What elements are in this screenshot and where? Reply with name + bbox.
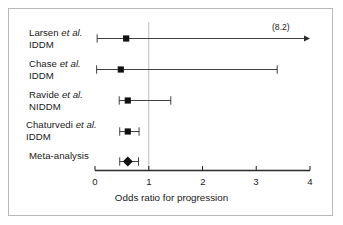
- ci-row-1: [97, 65, 278, 73]
- ci-row-0: [97, 34, 310, 42]
- forest-plot: Larsen et al. IDDM Chase et al. IDDM Rav…: [0, 0, 343, 225]
- point-estimate-square: [125, 97, 131, 103]
- point-estimate-square: [123, 35, 129, 41]
- point-estimate-square: [118, 66, 124, 72]
- confidence-interval-group: [97, 34, 310, 166]
- ci-row-2: [119, 96, 171, 104]
- point-estimate-diamond: [123, 157, 133, 167]
- point-estimate-square: [125, 128, 131, 134]
- x-axis-group: [95, 166, 310, 171]
- ci-arrowhead: [304, 35, 310, 41]
- ci-row-4: [120, 157, 139, 167]
- ci-row-3: [120, 127, 139, 135]
- forest-plot-graphics: [0, 0, 343, 225]
